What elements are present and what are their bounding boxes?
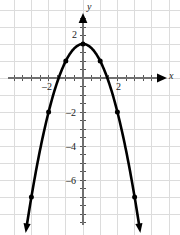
x-tick-label-neg2: –2 xyxy=(42,82,52,92)
parabola-graph-figure: y x 2 –2 –4 –6 –2 2 xyxy=(0,0,180,235)
data-point xyxy=(81,42,86,47)
data-point xyxy=(115,110,120,115)
curve-left-arrowhead xyxy=(24,223,31,233)
y-tick-label-neg4: –4 xyxy=(66,142,76,152)
data-point xyxy=(98,59,103,64)
y-tick-label-2: 2 xyxy=(72,30,77,40)
data-point xyxy=(132,195,137,200)
y-axis-label: y xyxy=(87,2,91,12)
data-point xyxy=(29,195,34,200)
y-tick-label-neg2: –2 xyxy=(66,108,76,118)
x-axis-label: x xyxy=(169,71,173,81)
data-point xyxy=(63,59,68,64)
y-tick-label-neg6: –6 xyxy=(66,176,76,186)
grid-lines xyxy=(0,0,180,235)
x-axis-arrowhead xyxy=(157,74,167,83)
curve-right-arrowhead xyxy=(135,223,142,233)
x-tick-label-2: 2 xyxy=(116,82,121,92)
plot-canvas xyxy=(0,0,180,235)
data-point xyxy=(46,110,51,115)
